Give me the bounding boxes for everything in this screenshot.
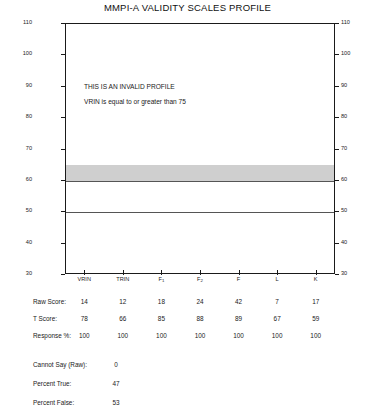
y-axis-tick-mark-left-70 [61, 149, 65, 150]
score-cell-F: 89 [224, 310, 254, 327]
score-cell-F: 42 [224, 293, 254, 310]
x-axis-label-F: F [221, 277, 257, 283]
y-axis-tick-label-left-30: 30 [12, 271, 32, 277]
x-axis-label-K: K [298, 277, 334, 283]
y-axis-tick-mark-left-100 [61, 54, 65, 55]
invalid-profile-annotation: THIS IS AN INVALID PROFILE VRIN is equal… [84, 79, 186, 109]
score-row-label: Response %: [33, 327, 71, 344]
summary-row: Cannot Say (Raw):0 [0, 355, 375, 374]
summary-value: 47 [106, 374, 126, 393]
y-axis-tick-label-right-90: 90 [341, 83, 361, 89]
shaded-normal-range-band [66, 165, 334, 181]
score-table: Raw Score:1412182442717T Score:786685888… [0, 293, 375, 344]
table-row: Raw Score:1412182442717 [0, 293, 375, 310]
summary-value: 0 [106, 355, 126, 374]
y-axis-tick-mark-left-80 [61, 117, 65, 118]
profile-plot-area [65, 23, 335, 274]
score-cell-K: 17 [301, 293, 331, 310]
x-axis-tick-mark-VRIN [84, 270, 85, 275]
score-cell-L: 67 [262, 310, 292, 327]
y-axis-tick-mark-right-40 [335, 243, 339, 244]
y-axis-tick-mark-left-40 [61, 243, 65, 244]
x-axis-tick-mark-L [277, 270, 278, 275]
y-axis-tick-mark-left-30 [61, 274, 65, 275]
score-cell-TRIN: 66 [108, 310, 138, 327]
score-cell-F: 100 [224, 327, 254, 344]
score-cell-VRIN: 14 [69, 293, 99, 310]
y-axis-tick-label-left-80: 80 [12, 114, 32, 120]
x-axis-label-F1: F1 [143, 277, 179, 283]
score-cell-F2: 88 [185, 310, 215, 327]
x-axis-tick-mark-TRIN [123, 270, 124, 275]
score-row-label: T Score: [33, 310, 57, 327]
summary-label: Cannot Say (Raw): [33, 355, 87, 374]
y-axis-tick-label-left-90: 90 [12, 83, 32, 89]
y-axis-tick-mark-right-30 [335, 274, 339, 275]
score-cell-K: 59 [301, 310, 331, 327]
score-row-label: Raw Score: [33, 293, 66, 310]
x-axis-tick-mark-F1 [161, 270, 162, 275]
y-axis-tick-mark-right-50 [335, 211, 339, 212]
score-cell-F1: 18 [146, 293, 176, 310]
score-cell-K: 100 [301, 327, 331, 344]
table-row: Response %:100100100100100100100 [0, 327, 375, 344]
summary-value: 53 [106, 393, 126, 412]
score-cell-TRIN: 100 [108, 327, 138, 344]
summary-row: Percent False:53 [0, 393, 375, 412]
y-axis-tick-label-right-100: 100 [341, 51, 361, 57]
summary-row: Percent True:47 [0, 374, 375, 393]
score-cell-F1: 100 [146, 327, 176, 344]
y-axis-tick-label-left-40: 40 [12, 240, 32, 246]
score-cell-L: 100 [262, 327, 292, 344]
y-axis-tick-mark-right-100 [335, 54, 339, 55]
y-axis-tick-mark-right-80 [335, 117, 339, 118]
y-axis-tick-mark-left-60 [61, 180, 65, 181]
y-axis-tick-mark-right-110 [335, 23, 339, 24]
y-axis-tick-mark-right-90 [335, 86, 339, 87]
y-axis-tick-label-left-60: 60 [12, 177, 32, 183]
summary-section: Cannot Say (Raw):0Percent True:47Percent… [0, 355, 375, 412]
x-axis-label-VRIN: VRIN [66, 277, 102, 283]
score-cell-VRIN: 78 [69, 310, 99, 327]
score-cell-F1: 85 [146, 310, 176, 327]
x-axis-label-L: L [259, 277, 295, 283]
score-cell-F2: 24 [185, 293, 215, 310]
summary-label: Percent True: [33, 374, 71, 393]
table-row: T Score:78668588896759 [0, 310, 375, 327]
y-axis-tick-mark-right-70 [335, 149, 339, 150]
y-axis-tick-label-left-70: 70 [12, 146, 32, 152]
y-axis-tick-label-right-60: 60 [341, 177, 361, 183]
y-axis-tick-mark-right-60 [335, 180, 339, 181]
y-axis-tick-mark-left-110 [61, 23, 65, 24]
y-axis-tick-label-left-110: 110 [12, 20, 32, 26]
score-cell-F2: 100 [185, 327, 215, 344]
x-axis-label-F2: F2 [182, 277, 218, 283]
x-axis-tick-mark-F2 [200, 270, 201, 275]
score-cell-VRIN: 100 [69, 327, 99, 344]
y-axis-tick-label-left-100: 100 [12, 51, 32, 57]
x-axis-tick-mark-K [316, 270, 317, 275]
y-axis-tick-label-right-40: 40 [341, 240, 361, 246]
y-axis-tick-label-right-70: 70 [341, 146, 361, 152]
score-cell-L: 7 [262, 293, 292, 310]
annotation-line-1: THIS IS AN INVALID PROFILE [84, 79, 186, 94]
y-axis-tick-label-right-30: 30 [341, 271, 361, 277]
y-axis-tick-label-right-80: 80 [341, 114, 361, 120]
y-axis-tick-mark-left-90 [61, 86, 65, 87]
y-axis-tick-mark-left-50 [61, 211, 65, 212]
summary-label: Percent False: [33, 393, 74, 412]
y-axis-tick-label-left-50: 50 [12, 208, 32, 214]
y-axis-tick-label-right-110: 110 [341, 20, 361, 26]
page-title: MMPI-A VALIDITY SCALES PROFILE [0, 2, 375, 13]
x-axis-label-TRIN: TRIN [105, 277, 141, 283]
score-cell-TRIN: 12 [108, 293, 138, 310]
x-axis-tick-mark-F [239, 270, 240, 275]
reference-line-50 [66, 212, 334, 213]
annotation-line-2: VRIN is equal to or greater than 75 [84, 94, 186, 109]
y-axis-tick-label-right-50: 50 [341, 208, 361, 214]
reference-line-60 [66, 181, 334, 182]
